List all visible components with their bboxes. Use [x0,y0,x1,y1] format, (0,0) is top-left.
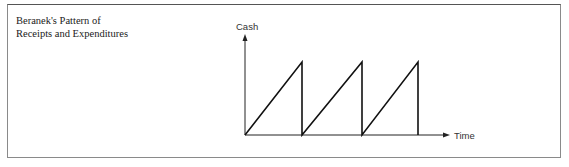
x-axis-label: Time [454,130,475,141]
y-axis-arrow-icon [243,34,248,41]
sawtooth-chart: Cash Time [0,0,569,167]
x-axis-arrow-icon [443,133,450,138]
cash-series-line [245,62,418,135]
y-axis-label: Cash [236,21,258,32]
